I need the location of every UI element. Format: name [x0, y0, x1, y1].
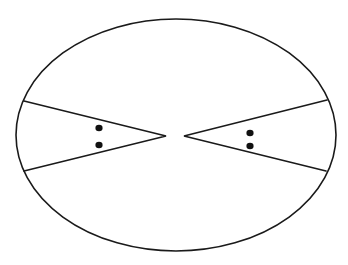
right-wedge	[184, 100, 327, 171]
left-wedge	[24, 101, 166, 171]
outer-ellipse	[16, 19, 336, 251]
dots-group	[95, 125, 253, 149]
left-wedge-dot-1	[95, 125, 102, 131]
diagram-svg	[0, 0, 348, 265]
right-wedge-dot-2	[246, 143, 253, 149]
right-wedge-dot-1	[246, 130, 253, 136]
diagram-canvas: Ellipse containing two opposing wedge sh…	[0, 0, 348, 265]
left-wedge-dot-2	[95, 142, 102, 148]
